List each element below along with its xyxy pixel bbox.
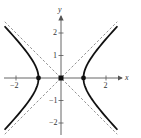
y-tick-label: 2 [53,29,57,37]
x-tick-label: −2 [10,82,19,90]
y-tick-label: −1 [49,97,58,105]
x-tick-label: 2 [104,82,108,90]
center-point [59,76,64,81]
y-tick-label: 1 [53,52,57,60]
hyperbola-plot [0,0,141,138]
y-axis-label: y [58,6,62,14]
vertex-point [36,76,41,81]
vertex-point [81,76,86,81]
x-axis-label: x [125,74,129,82]
y-tick-label: −2 [49,119,58,127]
